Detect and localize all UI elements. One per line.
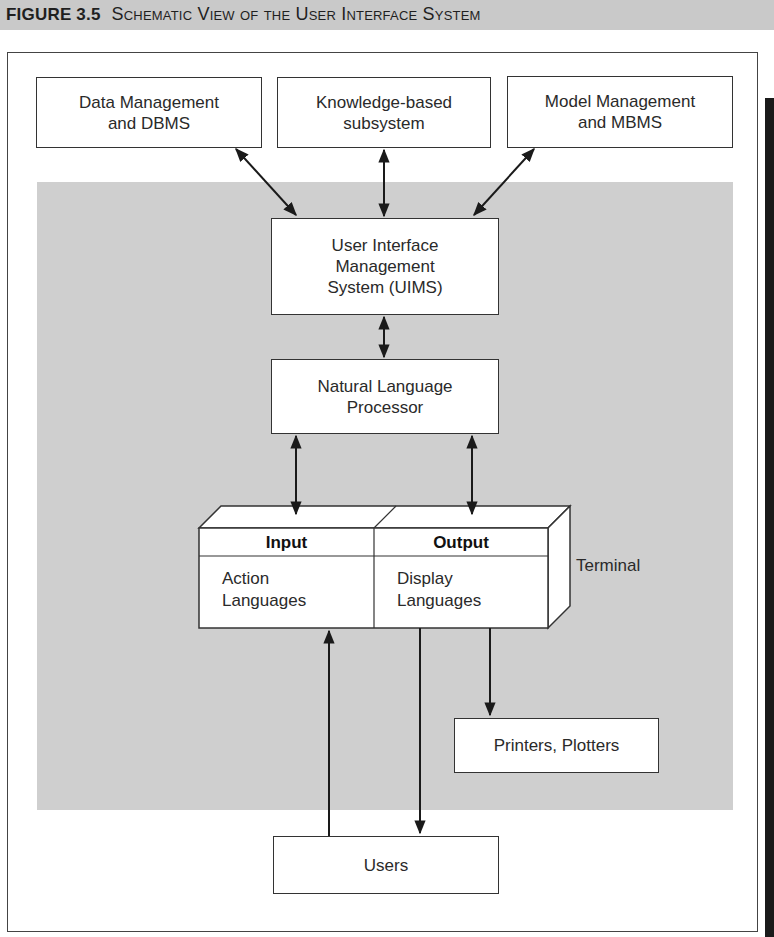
figure-number: FIGURE 3.5 [6,5,101,24]
terminal-input-header: Input [199,533,374,553]
model-management-label: Model Management and MBMS [545,91,695,133]
model-management-box: Model Management and MBMS [507,76,733,148]
terminal-output-body: Display Languages [397,568,481,612]
uims-label: User Interface Management System (UIMS) [327,235,442,298]
data-management-box: Data Management and DBMS [36,77,262,148]
page-edge-strip [765,98,774,937]
figure-caption: FIGURE 3.5 Schematic View of the User In… [6,4,481,25]
figure-title: Schematic View of the User Interface Sys… [112,4,481,24]
users-label: Users [364,855,408,876]
terminal-label: Terminal [576,556,640,576]
knowledge-subsystem-label: Knowledge-based subsystem [316,92,452,134]
nlp-box: Natural Language Processor [271,359,499,434]
terminal-output-header: Output [374,533,548,553]
users-box: Users [273,836,499,894]
printers-plotters-label: Printers, Plotters [494,735,620,756]
data-management-label: Data Management and DBMS [79,92,219,134]
caption-bar: FIGURE 3.5 Schematic View of the User In… [0,0,774,30]
terminal-input-body: Action Languages [222,568,306,612]
knowledge-subsystem-box: Knowledge-based subsystem [277,77,491,148]
uims-box: User Interface Management System (UIMS) [271,218,499,315]
printers-plotters-box: Printers, Plotters [454,718,659,773]
nlp-label: Natural Language Processor [317,376,452,418]
